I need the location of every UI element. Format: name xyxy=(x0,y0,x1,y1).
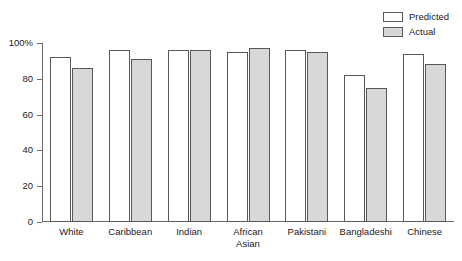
legend-item-actual: Actual xyxy=(383,26,449,37)
bar-actual-white xyxy=(72,68,93,222)
bar-predicted-caribbean xyxy=(109,50,130,222)
bar-actual-indian xyxy=(190,50,211,222)
y-tick-label-0: 0 xyxy=(28,216,33,227)
plot-area: 020406080100% xyxy=(42,43,454,222)
legend-item-predicted: Predicted xyxy=(383,11,449,22)
bar-predicted-chinese xyxy=(403,54,424,222)
bar-actual-african-asian xyxy=(249,48,270,222)
x-label-bangladeshi: Bangladeshi xyxy=(336,226,395,238)
chart-legend: Predicted Actual xyxy=(383,11,449,37)
bar-predicted-white xyxy=(50,57,71,222)
bar-actual-chinese xyxy=(425,64,446,222)
x-label-caribbean: Caribbean xyxy=(101,226,160,238)
x-label-white: White xyxy=(42,226,101,238)
bar-actual-bangladeshi xyxy=(366,88,387,222)
y-tick-label-40: 40 xyxy=(22,144,33,155)
x-label-indian: Indian xyxy=(160,226,219,238)
x-label-pakistani: Pakistani xyxy=(277,226,336,238)
bar-predicted-indian xyxy=(168,50,189,222)
x-label-chinese: Chinese xyxy=(395,226,454,238)
y-tick-label-80: 80 xyxy=(22,73,33,84)
bar-predicted-african-asian xyxy=(227,52,248,222)
y-tick-label-20: 20 xyxy=(22,180,33,191)
legend-label-actual: Actual xyxy=(409,27,435,37)
predicted-swatch-icon xyxy=(383,12,403,22)
y-tick-0: 0 xyxy=(37,222,42,223)
y-tick-label-60: 60 xyxy=(22,109,33,120)
actual-swatch-icon xyxy=(383,27,403,37)
y-tick-label-100: 100% xyxy=(9,37,33,48)
bar-predicted-pakistani xyxy=(285,50,306,222)
bar-series-container xyxy=(42,43,454,222)
x-axis-labels: WhiteCaribbeanIndianAfrican AsianPakista… xyxy=(42,226,454,260)
legend-label-predicted: Predicted xyxy=(409,12,449,22)
bar-chart: Predicted Actual 020406080100% WhiteCari… xyxy=(0,0,462,261)
x-label-african-asian: African Asian xyxy=(219,226,278,250)
bar-predicted-bangladeshi xyxy=(344,75,365,222)
bar-actual-pakistani xyxy=(307,52,328,222)
bar-actual-caribbean xyxy=(131,59,152,222)
